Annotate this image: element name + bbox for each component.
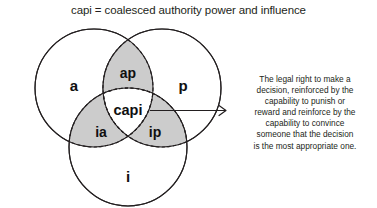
label-a: a bbox=[70, 77, 79, 94]
diagram-canvas: capi = coalesced authority power and inf… bbox=[0, 0, 377, 208]
description-text: The legal right to make a decision, rein… bbox=[235, 74, 375, 152]
label-ia: ia bbox=[95, 124, 107, 140]
venn-diagram: a p i ap ia ip capi bbox=[22, 26, 237, 208]
label-ip: ip bbox=[149, 124, 161, 140]
label-ap: ap bbox=[120, 65, 136, 81]
label-i: i bbox=[126, 168, 130, 185]
page-title: capi = coalesced authority power and inf… bbox=[0, 4, 377, 16]
label-capi: capi bbox=[113, 102, 142, 118]
description-line: capability to punish or bbox=[235, 96, 375, 107]
description-line: is the most appropriate one. bbox=[235, 141, 375, 152]
description-line: decision, reinforced by the bbox=[235, 85, 375, 96]
label-p: p bbox=[178, 77, 187, 94]
description-line: The legal right to make a bbox=[235, 74, 375, 85]
description-line: someone that the decision bbox=[235, 129, 375, 140]
description-line: capability to convince bbox=[235, 118, 375, 129]
description-line: reward and reinforce by the bbox=[235, 107, 375, 118]
